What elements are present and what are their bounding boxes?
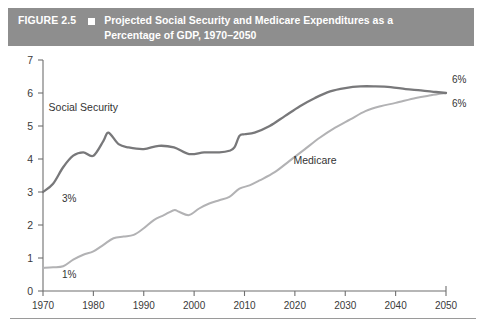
x-axis-tick-label: 1980 (82, 300, 105, 311)
y-axis-tick-label: 0 (27, 285, 33, 297)
y-axis-tick-label: 7 (27, 54, 33, 66)
y-axis-tick-label: 3 (27, 186, 33, 198)
y-axis-tick-label: 2 (27, 219, 33, 231)
x-axis-tick-label: 1990 (133, 300, 156, 311)
annotation-label: 3% (62, 193, 77, 204)
y-axis: 01234567 (27, 54, 43, 297)
annotation-label: 1% (62, 269, 77, 280)
x-axis-tick-label: 2000 (183, 300, 206, 311)
medicare-line-series (43, 93, 446, 268)
x-axis-tick-label: 2030 (334, 300, 357, 311)
chart-container: 01234567 1970198019902000201020202030204… (0, 46, 486, 311)
x-axis: 197019801990200020102020203020402050 (32, 286, 458, 311)
y-axis-tick-label: 4 (27, 153, 33, 165)
square-marker-icon (88, 18, 95, 25)
y-axis-tick-label: 6 (27, 87, 33, 99)
x-axis-tick-label: 2020 (284, 300, 307, 311)
x-axis-tick-label: 2050 (435, 300, 458, 311)
figure-number-label: FIGURE 2.5 (18, 13, 76, 26)
annotation-label: 6% (452, 98, 467, 109)
bottom-divider (10, 318, 476, 319)
series-label-medicare: Medicare (293, 154, 336, 166)
y-axis-tick-label: 5 (27, 120, 33, 132)
x-axis-tick-label: 2040 (385, 300, 408, 311)
x-axis-tick-label: 1970 (32, 300, 55, 311)
series-label-social-security: Social Security (49, 101, 119, 113)
annotation-label: 6% (452, 74, 467, 85)
line-chart: 01234567 1970198019902000201020202030204… (0, 46, 486, 311)
x-axis-tick-label: 2010 (233, 300, 256, 311)
figure-header-bar: FIGURE 2.5 Projected Social Security and… (8, 8, 474, 46)
figure-title: Projected Social Security and Medicare E… (104, 13, 434, 42)
y-axis-tick-label: 1 (27, 252, 33, 264)
